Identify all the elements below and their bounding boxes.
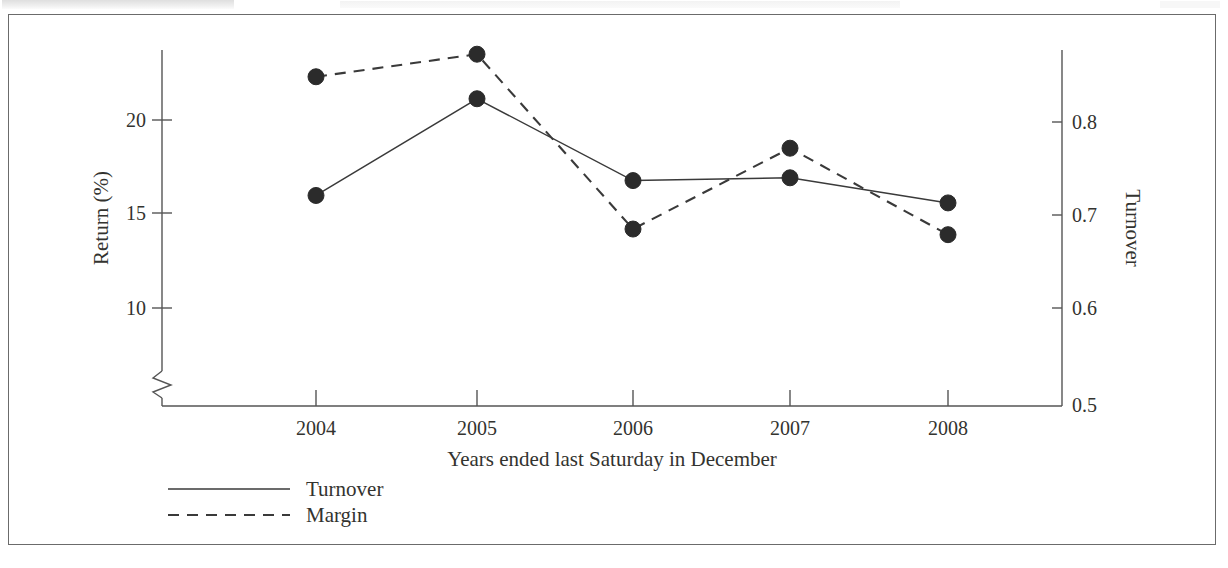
- legend-label-margin: Margin: [306, 503, 368, 527]
- x-axis: 2004 2005 2006 2007 2008 Years ended las…: [162, 390, 1062, 471]
- legend-label-turnover: Turnover: [306, 477, 383, 501]
- x-tick-label-2005: 2005: [457, 417, 497, 439]
- right-axis: 0.8 0.7 0.6 0.5 Turnover: [1052, 50, 1145, 416]
- left-tick-label-10: 10: [126, 297, 146, 319]
- left-tick-label-20: 20: [126, 109, 146, 131]
- line-chart: 20 15 10 Return (%) 0.8 0.7 0.6 0.5 Turn…: [0, 0, 1228, 568]
- right-tick-label-08: 0.8: [1072, 111, 1097, 133]
- data-point-margin-2006: [625, 221, 641, 237]
- left-axis-break-zigzag: [153, 371, 171, 398]
- data-point-turnover-2004: [308, 187, 324, 203]
- data-point-turnover-2006: [625, 173, 641, 189]
- left-tick-label-15: 15: [126, 202, 146, 224]
- series-layer: [308, 46, 956, 242]
- left-axis-title: Return (%): [89, 171, 113, 265]
- data-point-margin-2008: [940, 227, 956, 243]
- right-tick-label-06: 0.6: [1072, 297, 1097, 319]
- x-tick-label-2004: 2004: [296, 417, 336, 439]
- data-point-turnover-2005: [469, 91, 485, 107]
- data-point-turnover-2008: [940, 195, 956, 211]
- data-point-turnover-2007: [782, 170, 798, 186]
- series-line-margin: [316, 54, 948, 234]
- right-axis-title: Turnover: [1121, 189, 1145, 266]
- left-axis: 20 15 10 Return (%): [89, 50, 172, 406]
- right-tick-label-07: 0.7: [1072, 204, 1097, 226]
- x-tick-label-2008: 2008: [928, 417, 968, 439]
- x-tick-label-2006: 2006: [613, 417, 653, 439]
- x-tick-label-2007: 2007: [770, 417, 810, 439]
- x-axis-title: Years ended last Saturday in December: [447, 447, 777, 471]
- data-point-margin-2004: [308, 69, 324, 85]
- data-point-margin-2005: [469, 46, 485, 62]
- data-point-margin-2007: [782, 140, 798, 156]
- right-tick-label-05: 0.5: [1072, 394, 1097, 416]
- chart-legend: Turnover Margin: [168, 477, 383, 527]
